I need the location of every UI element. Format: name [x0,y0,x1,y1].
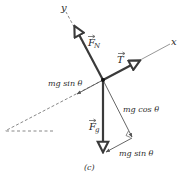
bottom-parallel-component-label: mg sin θ [119,149,154,158]
free-body-diagram: y x F N T F g mg sin θ mg cos θ mg sin θ… [0,0,177,174]
tension-symbol: T [117,54,125,65]
tension-label: T [117,52,125,65]
y-axis-label: y [60,2,67,13]
perpendicular-component-label: mg cos θ [123,105,159,114]
gravity-force-label: F g [88,119,100,134]
x-axis-label: x [171,36,177,47]
normal-force-vector [75,27,103,80]
gravity-force-subscript: g [95,126,100,134]
normal-force-subscript: N [93,42,101,50]
origin-point [101,78,105,82]
normal-force-label: F N [87,35,101,50]
parallel-component-label: mg sin θ [48,79,83,88]
figure-caption: (c) [84,163,95,172]
